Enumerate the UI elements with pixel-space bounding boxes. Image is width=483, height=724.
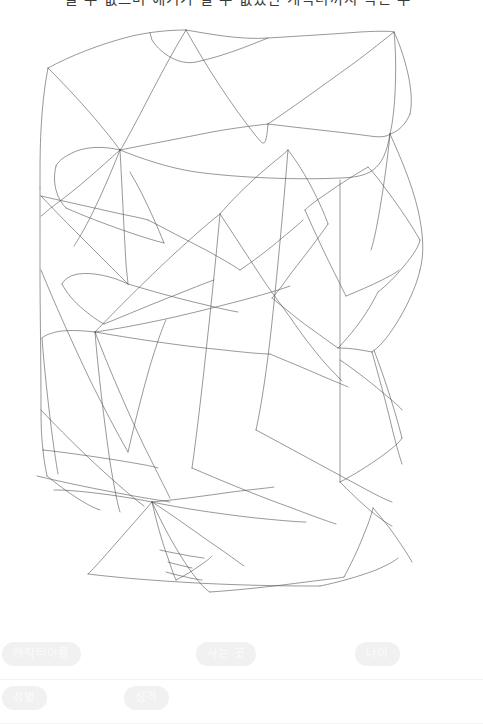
field-personality[interactable]: 성격 <box>124 686 481 710</box>
sketch-stroke-group <box>37 30 423 592</box>
label-gender: 성별 <box>2 686 47 711</box>
page-heading-text: 절 수 없으며 얘기가 잘 수 없었던 캐릭터까지 적은 수 <box>64 0 411 8</box>
label-residence: 사는 곳 <box>196 642 256 667</box>
input-age[interactable] <box>400 643 483 665</box>
clipped-heading-strip: 절 수 없으며 얘기가 잘 수 없었던 캐릭터까지 적은 수 <box>0 0 483 9</box>
field-age[interactable]: 나이 <box>355 642 483 666</box>
drawing-canvas[interactable] <box>0 10 483 610</box>
label-age: 나이 <box>355 642 400 667</box>
character-info-form: 캐릭터이름 사는 곳 나이 성별 성격 <box>0 620 483 720</box>
form-row-2: 성별 성격 <box>0 680 483 724</box>
input-personality[interactable] <box>169 687 481 709</box>
label-personality: 성격 <box>124 686 169 711</box>
form-row-1: 캐릭터이름 사는 곳 나이 <box>0 636 483 680</box>
sketch-svg <box>0 10 483 610</box>
label-character-name: 캐릭터이름 <box>2 642 81 667</box>
